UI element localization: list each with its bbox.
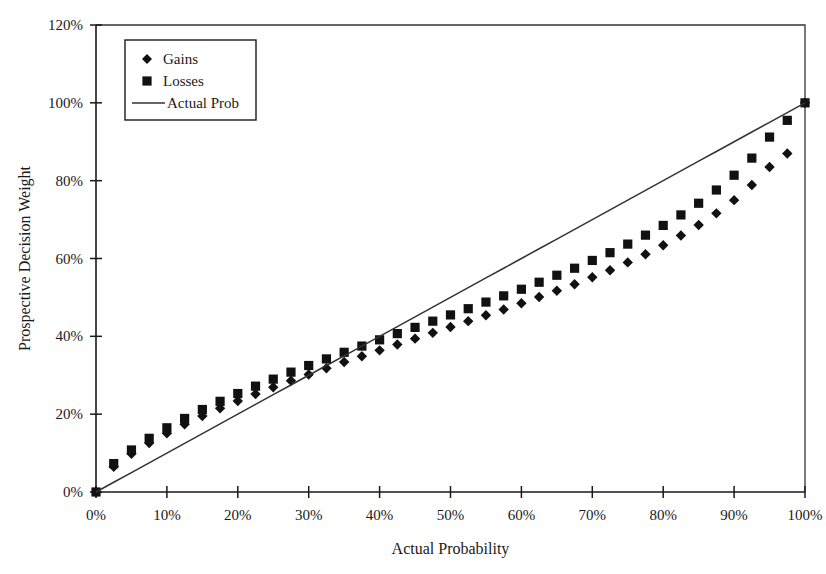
marker-square bbox=[410, 323, 419, 332]
series-line-actual-prob bbox=[96, 103, 805, 492]
marker-square bbox=[251, 382, 260, 391]
marker-square bbox=[694, 199, 703, 208]
marker-diamond bbox=[374, 345, 384, 355]
x-tick-label: 80% bbox=[649, 507, 677, 523]
marker-diamond bbox=[764, 162, 774, 172]
marker-square bbox=[428, 317, 437, 326]
y-tick-label: 60% bbox=[56, 251, 84, 267]
marker-square bbox=[623, 240, 632, 249]
marker-diamond bbox=[569, 279, 579, 289]
marker-square bbox=[535, 278, 544, 287]
marker-square bbox=[180, 414, 189, 423]
marker-diamond bbox=[392, 339, 402, 349]
y-tick-label: 0% bbox=[63, 484, 83, 500]
legend-label-losses: Losses bbox=[163, 73, 204, 89]
marker-square bbox=[552, 271, 561, 280]
marker-square bbox=[233, 389, 242, 398]
marker-square bbox=[393, 329, 402, 338]
x-axis-title: Actual Probability bbox=[392, 540, 510, 558]
x-tick-label: 70% bbox=[579, 507, 607, 523]
marker-diamond bbox=[729, 195, 739, 205]
marker-diamond bbox=[410, 333, 420, 343]
marker-diamond bbox=[534, 292, 544, 302]
x-tick-label: 50% bbox=[437, 507, 465, 523]
marker-diamond bbox=[782, 148, 792, 158]
marker-square bbox=[783, 116, 792, 125]
marker-square bbox=[215, 397, 224, 406]
x-tick-label: 100% bbox=[788, 507, 823, 523]
marker-diamond bbox=[481, 310, 491, 320]
marker-square bbox=[747, 153, 756, 162]
marker-diamond bbox=[711, 208, 721, 218]
marker-square bbox=[464, 304, 473, 313]
marker-square bbox=[446, 310, 455, 319]
marker-square bbox=[730, 171, 739, 180]
x-tick-label: 10% bbox=[153, 507, 181, 523]
marker-square bbox=[198, 405, 207, 414]
legend-label-gains: Gains bbox=[163, 51, 198, 67]
y-tick-label: 80% bbox=[56, 173, 84, 189]
marker-square bbox=[641, 231, 650, 240]
marker-square bbox=[145, 434, 154, 443]
marker-square bbox=[517, 285, 526, 294]
x-tick-label: 30% bbox=[295, 507, 323, 523]
y-tick-label: 100% bbox=[48, 95, 83, 111]
marker-diamond bbox=[658, 240, 668, 250]
marker-diamond bbox=[587, 272, 597, 282]
marker-diamond bbox=[498, 304, 508, 314]
marker-diamond bbox=[445, 322, 455, 332]
marker-square bbox=[162, 423, 171, 432]
marker-diamond bbox=[676, 230, 686, 240]
marker-diamond bbox=[747, 180, 757, 190]
x-tick-label: 60% bbox=[508, 507, 536, 523]
marker-diamond bbox=[357, 351, 367, 361]
marker-diamond bbox=[463, 316, 473, 326]
legend: GainsLossesActual Prob bbox=[125, 40, 256, 120]
marker-square bbox=[800, 98, 809, 107]
marker-square bbox=[269, 375, 278, 384]
x-tick-label: 20% bbox=[224, 507, 252, 523]
marker-square bbox=[765, 132, 774, 141]
marker-square bbox=[304, 361, 313, 370]
prospect-theory-weighting-chart: 0%20%40%60%80%100%120%0%10%20%30%40%50%6… bbox=[0, 0, 826, 574]
marker-square bbox=[659, 221, 668, 230]
legend-marker-square bbox=[142, 76, 151, 85]
x-tick-label: 90% bbox=[720, 507, 748, 523]
marker-square bbox=[605, 248, 614, 257]
marker-square bbox=[676, 210, 685, 219]
marker-diamond bbox=[605, 265, 615, 275]
marker-square bbox=[712, 185, 721, 194]
marker-diamond bbox=[623, 257, 633, 267]
marker-square bbox=[499, 291, 508, 300]
y-tick-label: 20% bbox=[56, 406, 84, 422]
marker-diamond bbox=[552, 286, 562, 296]
marker-diamond bbox=[428, 328, 438, 338]
y-tick-label: 40% bbox=[56, 328, 84, 344]
marker-square bbox=[588, 256, 597, 265]
marker-square bbox=[286, 368, 295, 377]
marker-diamond bbox=[516, 298, 526, 308]
y-axis-title: Prospective Decision Weight bbox=[16, 165, 34, 351]
marker-square bbox=[322, 354, 331, 363]
chart-figure: 0%20%40%60%80%100%120%0%10%20%30%40%50%6… bbox=[0, 0, 826, 574]
marker-square bbox=[481, 297, 490, 306]
x-tick-label: 0% bbox=[86, 507, 106, 523]
marker-diamond bbox=[693, 220, 703, 230]
marker-square bbox=[109, 459, 118, 468]
marker-diamond bbox=[640, 249, 650, 259]
marker-square bbox=[127, 445, 136, 454]
x-tick-label: 40% bbox=[366, 507, 394, 523]
y-tick-label: 120% bbox=[48, 17, 83, 33]
marker-square bbox=[570, 264, 579, 273]
legend-label-actual-prob: Actual Prob bbox=[167, 95, 239, 111]
